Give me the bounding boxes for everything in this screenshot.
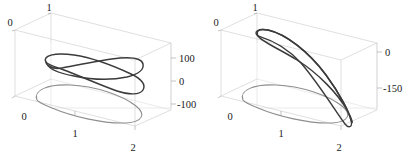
ztick-label-100: 100 [179,53,195,64]
ytick-label-0: 0 [213,17,218,28]
ytick-label-0: 0 [7,17,12,28]
plot-panel-right: 0 1 0 1 2 0 -150 [206,0,412,167]
plot-svg-left: 0 1 0 1 2 100 0 -100 [0,0,206,167]
plot-panel-left: 0 1 0 1 2 100 0 -100 [0,0,206,167]
base-projection-curve-left [36,85,141,123]
tick-labels-left: 0 1 0 1 2 100 0 -100 [7,2,196,153]
xtick-label-2: 2 [336,142,341,153]
ztick-label-neg100: -100 [177,99,196,110]
ztick-label-neg150: -150 [383,83,402,94]
ytick-label-1: 1 [252,2,257,13]
tick-marks-right [218,13,382,130]
figure-container: 0 1 0 1 2 100 0 -100 [0,0,412,167]
plot-svg-right: 0 1 0 1 2 0 -150 [206,0,412,167]
xtick-label-2: 2 [130,142,135,153]
ztick-label-0: 0 [179,76,184,87]
xtick-label-1: 1 [278,128,283,139]
xtick-label-1: 1 [72,128,77,139]
tick-labels-right: 0 1 0 1 2 0 -150 [213,2,402,153]
xtick-label-0: 0 [21,111,26,122]
box-wireframe-right [221,13,377,126]
box-wireframe-left [15,13,171,126]
ztick-label-0: 0 [385,47,390,58]
xtick-label-0: 0 [227,111,232,122]
tick-marks-left [12,13,176,130]
ytick-label-1: 1 [46,2,51,13]
